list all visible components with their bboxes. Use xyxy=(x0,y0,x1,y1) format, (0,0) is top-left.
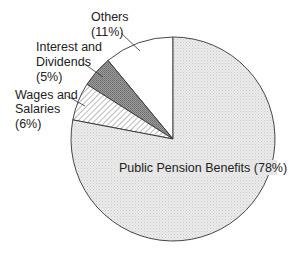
pie-slices xyxy=(71,37,275,241)
svg-text:Public Pension Benefits (78%): Public Pension Benefits (78%) xyxy=(119,161,287,175)
svg-text:(11%): (11%) xyxy=(91,25,123,39)
svg-text:Dividends: Dividends xyxy=(36,55,91,69)
svg-text:(6%): (6%) xyxy=(15,117,41,131)
svg-text:(5%): (5%) xyxy=(36,70,62,84)
svg-text:Salaries: Salaries xyxy=(15,102,60,116)
label-public-pension: Public Pension Benefits (78%) xyxy=(117,160,287,175)
svg-text:Wages and: Wages and xyxy=(15,88,78,102)
label-others: Others (11%) xyxy=(91,10,129,39)
svg-text:Interest and: Interest and xyxy=(36,40,102,54)
svg-text:Others: Others xyxy=(91,10,129,24)
pie-chart: Others (11%) Interest and Dividends (5%)… xyxy=(0,0,289,259)
label-wages-salaries: Wages and Salaries (6%) xyxy=(15,88,78,131)
